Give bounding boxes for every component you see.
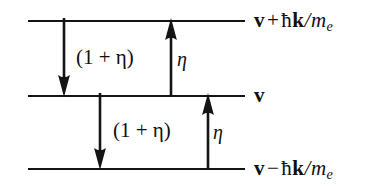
electron-mass-symbol: m (311, 8, 326, 32)
rate-label-lower-down: (1 + η) (113, 120, 171, 141)
wavevector-symbol: k (292, 8, 304, 32)
division-slash: / (304, 8, 311, 32)
division-slash: / (304, 156, 311, 180)
minus-operator: − (265, 156, 282, 180)
plus-operator: + (265, 8, 282, 32)
rate-label-upper-up: η (177, 49, 187, 69)
wavevector-symbol: k (292, 156, 304, 180)
rate-label-upper-down: (1 + η) (76, 47, 134, 68)
velocity-vector-symbol: v (254, 8, 265, 32)
transition-arrow-upper-down (55, 18, 73, 98)
level-label-middle: v (254, 85, 265, 106)
electron-mass-symbol: m (311, 156, 326, 180)
electron-mass-subscript: e (326, 166, 333, 182)
velocity-vector-symbol: v (254, 156, 265, 180)
electron-mass-subscript: e (326, 18, 333, 34)
velocity-vector-symbol: v (254, 83, 265, 107)
transition-arrow-lower-down (91, 93, 109, 171)
energy-level-diagram: (1 + η) η (1 + η) η v+ħk/me v v−ħk/me (0, 0, 367, 189)
hbar-symbol: ħ (281, 156, 292, 180)
rate-label-lower-up: η (213, 122, 223, 142)
level-label-lower: v−ħk/me (254, 158, 333, 181)
level-label-upper: v+ħk/me (254, 10, 333, 33)
hbar-symbol: ħ (281, 8, 292, 32)
